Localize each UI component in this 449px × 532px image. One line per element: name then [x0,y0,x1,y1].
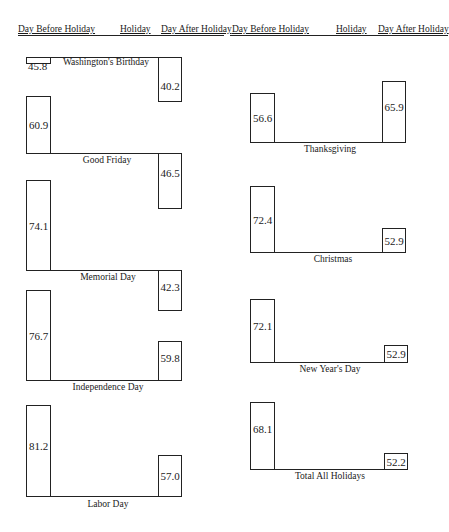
bar-day-before: 81.2 [26,405,51,497]
value-day-before: 72.1 [253,320,272,332]
value-day-after: 52.2 [386,456,405,468]
holiday-label: Memorial Day [80,272,136,282]
value-day-before: 76.7 [29,330,48,342]
left-column-header: Day Before Holiday Holiday Day After Hol… [18,24,224,36]
holiday-label: Good Friday [83,155,131,165]
bar-day-after: 52.9 [382,228,406,253]
value-day-after: 57.0 [160,470,179,482]
value-day-before: 72.4 [253,214,272,226]
value-day-before: 81.2 [29,440,48,452]
holiday-label: Labor Day [88,499,129,509]
header-holiday: Holiday [120,24,151,35]
value-day-before: 74.1 [29,220,48,232]
value-day-after: 52.9 [386,348,405,360]
bar-day-before: 60.9 [26,96,51,154]
bar-day-after: 57.0 [158,455,182,497]
bar-day-before: 72.4 [250,186,275,253]
bar-day-after: 52.2 [384,453,408,470]
holiday-label: Washington's Birthday [63,57,149,67]
bar-day-before: 76.7 [26,290,51,381]
value-day-before: 60.9 [29,119,48,131]
value-day-after: 46.5 [160,167,179,179]
value-day-after: 65.9 [384,101,403,113]
bar-day-after: 42.3 [158,270,182,311]
holiday-label: New Year's Day [299,364,360,374]
header-holiday: Holiday [336,24,367,35]
holiday-label: Thanksgiving [304,144,356,154]
header-day-after: Day After Holiday [378,24,449,35]
value-day-after: 52.9 [384,235,403,247]
right-column-header: Day Before Holiday Holiday Day After Hol… [230,24,448,36]
value-day-before: 68.1 [253,423,272,435]
bar-day-before: 68.1 [250,402,275,470]
header-day-before: Day Before Holiday [18,24,95,35]
value-day-before: 45.8 [28,60,47,72]
holiday-label: Independence Day [73,382,144,392]
bar-day-after: 52.9 [384,345,408,363]
bar-day-after: 59.8 [158,341,182,381]
holiday-label: Total All Holidays [295,471,365,481]
header-day-before: Day Before Holiday [232,24,309,35]
bar-day-after: 40.2 [158,57,182,102]
value-day-after: 59.8 [160,352,179,364]
value-day-before: 56.6 [253,112,272,124]
bar-day-before: 72.1 [250,299,275,363]
bar-day-after: 46.5 [158,153,182,209]
value-day-after: 40.2 [160,80,179,92]
holiday-label: Christmas [314,254,353,264]
bar-day-before: 56.6 [250,93,275,143]
value-day-after: 42.3 [160,281,179,293]
bar-day-before: 74.1 [26,180,51,271]
header-day-after: Day After Holiday [161,24,232,35]
bar-day-after: 65.9 [382,81,406,143]
